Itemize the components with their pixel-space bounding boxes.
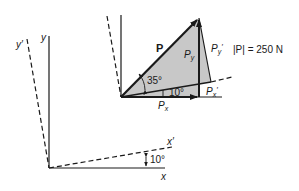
- upper-yprime-axis: [107, 16, 121, 97]
- px-label: Px: [158, 100, 169, 112]
- lower-y-label: y: [40, 32, 47, 43]
- upper-vector-diagram: P 35° 10° Px Py Py′ Px′ |P| = 250 N: [107, 15, 283, 112]
- lower-axes-diagram: y y′ x x′ 10°: [15, 32, 175, 182]
- upper-xprime-axis: [211, 77, 232, 82]
- angle-35-label: 35°: [147, 75, 162, 86]
- lower-yprime-axis: [27, 39, 49, 168]
- force-diagram: P 35° 10° Px Py Py′ Px′ |P| = 250 N y y′…: [0, 0, 299, 191]
- p-label: P: [156, 42, 163, 54]
- lower-x-label: x: [160, 171, 167, 182]
- pxprime-label: Px′: [206, 85, 218, 98]
- lower-xprime-label: x′: [166, 136, 175, 147]
- magnitude-label: |P| = 250 N: [233, 44, 283, 55]
- lower-angle-label: 10°: [150, 154, 165, 165]
- pyprime-label: Py′: [211, 42, 223, 56]
- angle-10-label: 10°: [169, 87, 184, 98]
- lower-yprime-label: y′: [15, 39, 24, 50]
